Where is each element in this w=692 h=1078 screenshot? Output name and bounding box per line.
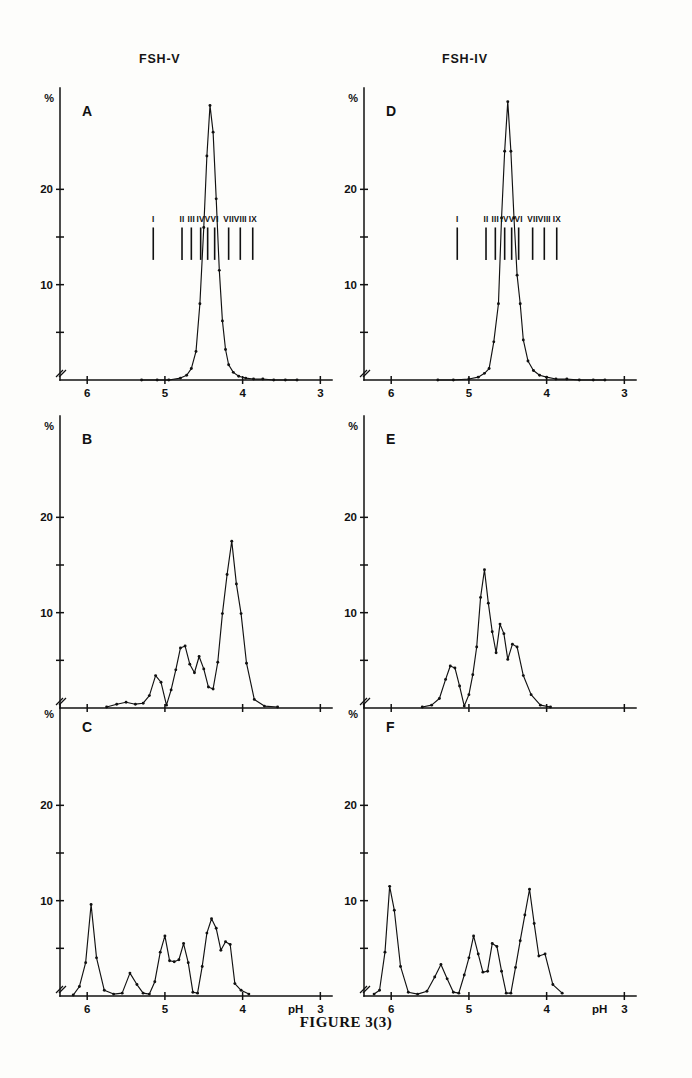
data-point [219,949,222,952]
panel-a: 2010%6543IIIIIIIVVVIVIIVIIIIXA [36,84,336,410]
data-point [561,992,564,995]
data-point [544,953,547,956]
data-point [188,663,191,666]
data-point [229,943,232,946]
x-tick-label: 4 [543,387,550,399]
data-point [527,359,530,362]
data-point [444,678,447,681]
data-point [452,379,455,382]
data-point [168,959,171,962]
data-point [475,646,478,649]
data-point [506,658,509,661]
data-point [509,150,512,153]
panel-letter: B [82,431,92,447]
isoform-marker-label: II [180,215,185,224]
y-tick-label: 20 [40,799,53,811]
data-point [252,378,255,381]
data-point [603,379,606,382]
data-point [226,573,229,576]
data-point [240,612,243,615]
isoform-marker-label: IX [249,215,257,224]
plot-f: 2010%6543pHF [340,700,640,1026]
data-point [506,100,509,103]
y-axis-unit-label: % [348,708,358,720]
column-title-left: FSH-V [139,52,181,66]
data-point [174,668,177,671]
plot-a: 2010%6543IIIIIIIVVVIVIIVIIIIXA [36,84,336,410]
data-point [205,155,208,158]
data-point [245,662,248,665]
data-point [198,655,201,658]
data-point [500,216,503,219]
x-tick-label: 3 [621,387,627,399]
data-point [244,377,247,380]
isoform-marker-label: VIII [538,215,551,224]
data-point [156,379,159,382]
data-point [207,686,210,689]
data-point [488,367,491,370]
x-tick-label: 6 [388,387,394,399]
data-point [499,623,502,626]
y-tick-label: 20 [40,183,53,195]
data-point [163,934,166,937]
data-point [492,340,495,343]
y-tick-label: 20 [344,183,357,195]
data-point [218,269,221,272]
data-point [503,150,506,153]
data-point [296,379,299,382]
data-point [179,646,182,649]
data-point [458,685,461,688]
data-point [477,376,480,379]
data-point [202,667,205,670]
panel-d: 2010%6543IIIIIIIVVVIVIIVIIIIXD [340,84,640,410]
data-point [224,940,227,943]
data-point [497,302,500,305]
data-point [477,953,480,956]
data-point [184,645,187,648]
y-tick-label: 10 [344,607,357,619]
data-point [72,994,75,997]
data-point [446,977,449,980]
data-point [167,379,170,382]
data-point [522,674,525,677]
data-point [148,694,151,697]
data-point [483,568,486,571]
data-point [545,376,548,379]
panel-b: 2010%B [36,412,336,738]
data-point [472,934,475,937]
data-point [578,379,581,382]
data-point [500,970,503,973]
data-point [103,989,106,992]
data-point [179,377,182,380]
panel-e: 2010%E [340,412,640,738]
data-point [193,671,196,674]
isoform-marker-label: VI [515,215,523,224]
data-point [233,982,236,985]
x-tick-label: 3 [317,387,323,399]
data-point [555,378,558,381]
y-axis-unit-label: % [44,420,54,432]
data-point [221,319,224,322]
data-point [551,983,554,986]
data-point [191,991,194,994]
data-point [565,378,568,381]
data-trace [374,886,562,994]
data-point [142,992,145,995]
data-point [487,602,490,605]
isoform-marker-label: I [152,215,154,224]
data-point [196,992,199,995]
data-point [190,367,193,370]
data-point [416,993,419,996]
data-point [436,379,439,382]
data-point [523,914,526,917]
data-point [384,951,387,954]
panel-letter: F [386,719,395,735]
y-axis-unit-label: % [348,420,358,432]
data-point [481,971,484,974]
data-point [212,131,215,134]
data-point [514,966,517,969]
data-point [232,371,235,374]
data-point [537,955,540,958]
figure-root: FSH-V FSH-IV 2010%6543IIIIIIIVVVIVIIVIII… [0,0,692,1078]
isoform-marker-label: III [492,215,499,224]
